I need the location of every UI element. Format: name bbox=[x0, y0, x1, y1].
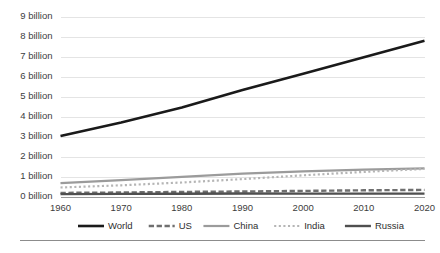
x-axis-tick-label: 1980 bbox=[171, 202, 192, 213]
legend-label: US bbox=[179, 220, 192, 231]
chart-legend: WorldUSChinaIndiaRussia bbox=[78, 220, 405, 231]
series-line-india bbox=[61, 169, 425, 188]
legend-label: China bbox=[233, 220, 259, 231]
x-axis-tick-label: 2020 bbox=[414, 202, 435, 213]
x-axis-tick-label: 2000 bbox=[293, 202, 314, 213]
chart-canvas: 9 billion8 billion7 billion6 billion5 bi… bbox=[0, 0, 440, 253]
y-axis-tick-label: 8 billion bbox=[20, 30, 52, 41]
legend-item-russia[interactable]: Russia bbox=[345, 220, 405, 231]
x-axis-tick-label: 2010 bbox=[353, 202, 374, 213]
y-axis-tick-label: 3 billion bbox=[20, 130, 52, 141]
legend-item-china[interactable]: China bbox=[203, 220, 259, 231]
x-axis-tick-label: 1990 bbox=[232, 202, 253, 213]
series-line-russia bbox=[61, 194, 425, 195]
legend-item-india[interactable]: India bbox=[274, 220, 325, 231]
y-axis-tick-label: 5 billion bbox=[20, 90, 52, 101]
legend-label: India bbox=[304, 220, 325, 231]
population-line-chart: 9 billion8 billion7 billion6 billion5 bi… bbox=[0, 0, 440, 253]
y-axis-tick-label: 2 billion bbox=[20, 150, 52, 161]
y-axis-tick-label: 6 billion bbox=[20, 70, 52, 81]
legend-label: World bbox=[108, 220, 133, 231]
legend-item-world[interactable]: World bbox=[78, 220, 133, 231]
y-axis-tick-label: 0 billion bbox=[20, 190, 52, 201]
y-axis-tick-labels: 9 billion8 billion7 billion6 billion5 bi… bbox=[20, 10, 52, 201]
y-axis-tick-label: 1 billion bbox=[20, 170, 52, 181]
x-axis-tick-label: 1960 bbox=[50, 202, 71, 213]
y-axis-tick-label: 9 billion bbox=[20, 10, 52, 21]
x-axis-tick-label: 1970 bbox=[111, 202, 132, 213]
legend-label: Russia bbox=[375, 220, 405, 231]
x-axis-tick-labels: 1960197019801990200020102020 bbox=[50, 202, 435, 213]
series-line-world bbox=[61, 41, 425, 136]
y-axis-tick-label: 4 billion bbox=[20, 110, 52, 121]
y-axis-tick-label: 7 billion bbox=[20, 50, 52, 61]
legend-item-us[interactable]: US bbox=[149, 220, 192, 231]
